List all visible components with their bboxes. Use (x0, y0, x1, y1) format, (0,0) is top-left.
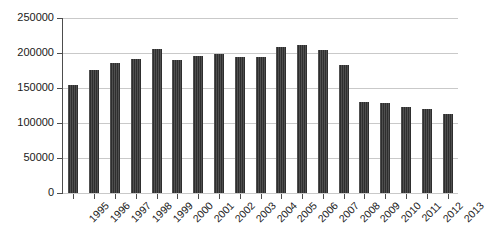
y-tick-mark (57, 88, 63, 89)
x-tick-mark (281, 194, 282, 199)
bar (256, 57, 266, 193)
y-axis-line (62, 18, 63, 194)
x-tick-mark (302, 194, 303, 199)
y-tick-label: 100000 (17, 117, 54, 128)
x-tick-mark (344, 194, 345, 199)
y-tick-label: 150000 (17, 82, 54, 93)
x-tick-label: 2013 (461, 200, 485, 224)
x-tick-label: 2001 (212, 200, 236, 224)
x-tick-mark (448, 194, 449, 199)
y-tick-label: 250000 (17, 12, 54, 23)
x-tick-label: 1995 (87, 200, 111, 224)
x-tick-label: 2000 (191, 200, 215, 224)
bar (339, 65, 349, 193)
y-tick-label: 200000 (17, 47, 54, 58)
x-tick-mark (177, 194, 178, 199)
y-tick-label: 50000 (23, 152, 54, 163)
x-tick-mark (94, 194, 95, 199)
bar (110, 63, 120, 193)
gridline (63, 53, 458, 54)
bar (131, 59, 141, 193)
bar (422, 109, 432, 193)
x-tick-label: 2009 (378, 200, 402, 224)
x-tick-label: 2008 (357, 200, 381, 224)
bar (443, 114, 453, 193)
y-tick-label: 0 (48, 187, 54, 198)
x-tick-mark (240, 194, 241, 199)
y-tick-mark (57, 53, 63, 54)
x-tick-label: 1998 (150, 200, 174, 224)
x-tick-mark (427, 194, 428, 199)
x-tick-label: 2011 (420, 200, 443, 223)
x-tick-mark (219, 194, 220, 199)
bar (297, 45, 307, 193)
gridline (63, 18, 458, 19)
x-tick-label: 2005 (295, 200, 319, 224)
bar (401, 107, 411, 193)
x-tick-label: 2004 (274, 200, 298, 224)
x-tick-label: 1997 (129, 200, 153, 224)
bar (276, 47, 286, 193)
bar (318, 50, 328, 194)
x-tick-mark (198, 194, 199, 199)
x-tick-label: 2003 (254, 200, 278, 224)
y-tick-mark (57, 18, 63, 19)
bar (214, 54, 224, 193)
x-tick-mark (157, 194, 158, 199)
x-tick-mark (136, 194, 137, 199)
x-tick-mark (115, 194, 116, 199)
x-tick-mark (323, 194, 324, 199)
x-tick-label: 2010 (399, 200, 423, 224)
bar (193, 56, 203, 193)
bar (359, 102, 369, 193)
x-tick-label: 1996 (108, 200, 132, 224)
x-tick-label: 2012 (441, 200, 465, 224)
y-tick-mark (57, 123, 63, 124)
x-tick-mark (364, 194, 365, 199)
x-tick-mark (406, 194, 407, 199)
y-tick-mark (57, 193, 63, 194)
x-tick-label: 1999 (170, 200, 194, 224)
x-tick-mark (261, 194, 262, 199)
bar (68, 85, 78, 193)
x-tick-mark (73, 194, 74, 199)
x-tick-label: 2006 (316, 200, 340, 224)
bar (235, 57, 245, 194)
bar (89, 70, 99, 193)
bar (152, 49, 162, 193)
bar (380, 103, 390, 193)
y-tick-mark (57, 158, 63, 159)
x-tick-label: 2002 (233, 200, 257, 224)
x-tick-mark (385, 194, 386, 199)
bar (172, 60, 182, 193)
x-tick-label: 2007 (337, 200, 361, 224)
